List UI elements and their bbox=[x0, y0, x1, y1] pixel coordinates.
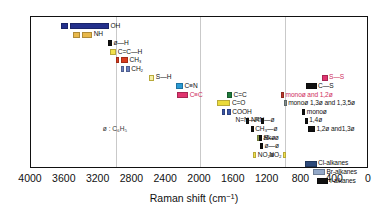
band-swatch-group bbox=[177, 92, 188, 98]
band-label: C—S bbox=[318, 83, 333, 90]
plot-area: OHNHø—HC=C—HCH₃CH₂S—HC≡NC≡CC=CC=OCOOHN=N… bbox=[30, 16, 368, 168]
band-entry: ø—ø bbox=[260, 142, 279, 150]
band-entry: S—S bbox=[322, 74, 345, 82]
band-label: C=O bbox=[232, 100, 245, 107]
band-swatch-group bbox=[260, 143, 263, 149]
band-swatch bbox=[284, 100, 287, 106]
band-swatch bbox=[305, 161, 317, 167]
band-label: S—H bbox=[156, 74, 171, 81]
x-axis-tick: 1200 bbox=[255, 172, 278, 184]
band-entry: C≡C bbox=[177, 91, 203, 99]
band-swatch bbox=[283, 152, 286, 158]
band-swatch bbox=[73, 32, 80, 38]
band-label: N=N—ø bbox=[251, 117, 275, 124]
band-swatch bbox=[121, 57, 128, 63]
x-axis-tick: 3600 bbox=[52, 172, 75, 184]
band-swatch-group bbox=[253, 152, 256, 158]
x-axis-tick: 2000 bbox=[187, 172, 210, 184]
band-label: S—S bbox=[329, 74, 344, 81]
band-entry: 1,4ø bbox=[305, 117, 322, 125]
band-swatch-group bbox=[149, 75, 154, 81]
band-swatch-group bbox=[73, 32, 92, 38]
band-entry: Cl-alkanes bbox=[305, 160, 348, 168]
band-swatch bbox=[177, 92, 188, 98]
band-swatch bbox=[176, 83, 183, 89]
band-swatch bbox=[61, 23, 69, 29]
band-swatch bbox=[126, 66, 129, 72]
band-swatch-group bbox=[222, 109, 231, 115]
band-swatch-group bbox=[61, 23, 109, 29]
x-axis-tick: 4000 bbox=[18, 172, 41, 184]
raman-shift-correlation-chart: OHNHø—HC=C—HCH₃CH₂S—HC≡NC≡CC=CC=OCOOHN=N… bbox=[0, 0, 388, 215]
band-label: C≡N bbox=[185, 83, 198, 90]
band-swatch-group bbox=[110, 49, 116, 55]
band-swatch-group bbox=[281, 92, 284, 98]
x-axis-tick-labels: 400036003200280024002000160012008004000 bbox=[0, 172, 388, 186]
band-entry: CH₃—ø bbox=[251, 125, 278, 133]
band-swatch-group bbox=[176, 83, 183, 89]
band-entry: CH₂ bbox=[121, 65, 143, 73]
band-entry: NH bbox=[73, 31, 103, 39]
band-swatch bbox=[259, 135, 262, 141]
band-entry: NO₂ bbox=[269, 151, 286, 159]
band-swatch-group bbox=[305, 161, 317, 167]
band-entry: OH bbox=[61, 22, 121, 30]
x-axis-title-text: Raman shift (cm−1) bbox=[150, 192, 239, 204]
band-label: C≡C bbox=[190, 92, 203, 99]
band-swatch-group bbox=[308, 126, 315, 132]
band-swatch-group bbox=[116, 57, 129, 63]
x-axis-tick: 2800 bbox=[120, 172, 143, 184]
band-label: NO₂ bbox=[269, 152, 281, 159]
band-swatch bbox=[253, 152, 256, 158]
band-swatch bbox=[305, 118, 308, 124]
band-swatch-group bbox=[302, 109, 305, 115]
band-entry: monoø bbox=[302, 108, 327, 116]
band-entry: C≡N bbox=[176, 82, 197, 90]
x-axis-tick: 2400 bbox=[154, 172, 177, 184]
band-swatch-group bbox=[217, 100, 231, 106]
band-swatch-group bbox=[259, 135, 262, 141]
band-entry: C—S bbox=[306, 82, 333, 90]
band-swatch bbox=[227, 92, 232, 98]
band-label: monoø bbox=[307, 109, 327, 116]
band-swatch-group bbox=[283, 152, 286, 158]
band-swatch-group bbox=[227, 92, 232, 98]
band-entry: N=N—ø bbox=[246, 117, 274, 125]
x-axis-tick: 800 bbox=[292, 172, 310, 184]
band-label: R—ø bbox=[264, 135, 279, 142]
band-entry: S—H bbox=[149, 74, 171, 82]
band-label: C=C—H bbox=[118, 49, 142, 56]
phenyl-legend-note: ø : C₆H₅ bbox=[103, 125, 127, 132]
band-entry: C=C—H bbox=[110, 48, 142, 56]
band-label: OH bbox=[111, 23, 121, 30]
band-swatch-group bbox=[322, 75, 328, 81]
band-swatch bbox=[302, 109, 305, 115]
band-label: monoø 1,3ø and 1,3,5ø bbox=[288, 100, 355, 107]
band-entry: C=O bbox=[217, 99, 245, 107]
band-swatch bbox=[308, 126, 315, 132]
band-label: ø—H bbox=[114, 40, 129, 47]
band-swatch bbox=[82, 32, 92, 38]
band-entry: ø—H bbox=[108, 39, 129, 47]
band-label: COOH bbox=[232, 109, 251, 116]
band-swatch-group bbox=[305, 118, 308, 124]
band-label: ø—ø bbox=[264, 143, 278, 150]
band-entry: COOH bbox=[222, 108, 252, 116]
band-label: CH₃—ø bbox=[255, 126, 277, 133]
band-label: monoø and 1,2ø bbox=[286, 92, 333, 99]
band-swatch-group bbox=[251, 126, 254, 132]
band-label: 1,2ø and1,3ø bbox=[316, 126, 354, 133]
band-swatch bbox=[227, 109, 230, 115]
band-label: Cl-alkanes bbox=[318, 160, 348, 167]
band-swatch bbox=[70, 23, 109, 29]
band-swatch-group bbox=[108, 40, 112, 46]
x-axis-tick: 1600 bbox=[221, 172, 244, 184]
band-swatch bbox=[281, 92, 284, 98]
band-label: 1,4ø bbox=[309, 117, 322, 124]
band-label: C=C bbox=[234, 92, 247, 99]
band-label: CH₃ bbox=[130, 57, 142, 64]
band-swatch bbox=[217, 100, 231, 106]
band-swatch bbox=[260, 143, 263, 149]
band-swatch bbox=[149, 75, 154, 81]
band-swatch-group bbox=[306, 83, 316, 89]
